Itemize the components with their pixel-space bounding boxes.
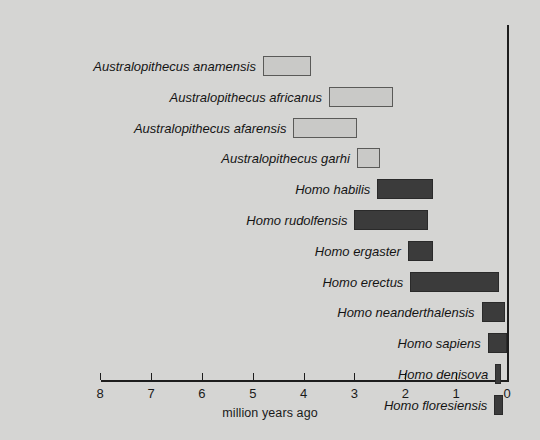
zero-axis-line	[507, 25, 509, 382]
species-label: Australopithecus anamensis	[93, 60, 263, 73]
species-row: Homo rudolfensis	[354, 210, 428, 230]
x-tick-label: 8	[88, 386, 112, 401]
x-tick-label: 5	[241, 386, 265, 401]
x-tick-label: 4	[292, 386, 316, 401]
x-tick-mark	[100, 373, 101, 380]
species-range-bar	[293, 118, 357, 138]
species-row: Homo ergaster	[408, 241, 433, 261]
species-row: Homo erectus	[410, 272, 499, 292]
species-label: Australopithecus garhi	[221, 152, 357, 165]
species-row: Australopithecus afarensis	[293, 118, 357, 138]
species-range-bar	[482, 302, 505, 322]
species-row: Homo denisova	[495, 364, 501, 384]
species-row: Homo sapiens	[488, 333, 507, 353]
species-label: Homo ergaster	[315, 244, 408, 257]
species-row: Homo habilis	[377, 179, 433, 199]
species-row: Australopithecus garhi	[357, 148, 380, 168]
species-range-bar	[408, 241, 433, 261]
species-row: Homo neanderthalensis	[482, 302, 505, 322]
species-label: Australopithecus afarensis	[134, 121, 293, 134]
species-range-bar	[495, 364, 501, 384]
species-label: Homo habilis	[295, 183, 377, 196]
x-tick-mark	[202, 373, 203, 380]
species-range-bar	[329, 87, 393, 107]
species-range-bar	[263, 56, 311, 76]
species-row: Australopithecus africanus	[329, 87, 393, 107]
species-label: Australopithecus africanus	[170, 90, 329, 103]
species-range-bar	[357, 148, 380, 168]
species-range-bar	[354, 210, 428, 230]
x-tick-mark	[253, 373, 254, 380]
species-label: Homo rudolfensis	[246, 214, 354, 227]
species-label: Homo denisova	[398, 368, 495, 381]
species-label: Homo sapiens	[398, 337, 488, 350]
species-range-bar	[377, 179, 433, 199]
x-tick-mark	[507, 373, 508, 380]
x-tick-mark	[151, 373, 152, 380]
x-tick-mark	[304, 373, 305, 380]
x-tick-label: 7	[139, 386, 163, 401]
species-row: Australopithecus anamensis	[263, 56, 311, 76]
x-tick-label: 3	[342, 386, 366, 401]
species-range-bar	[410, 272, 499, 292]
species-label: Homo neanderthalensis	[337, 306, 481, 319]
x-tick-label: 6	[190, 386, 214, 401]
evolution-timeline-chart: 876543210 Australopithecus anamensisAust…	[0, 0, 540, 440]
x-axis-title: million years ago	[0, 406, 540, 420]
x-tick-mark	[354, 373, 355, 380]
species-range-bar	[488, 333, 507, 353]
species-label: Homo erectus	[322, 275, 410, 288]
